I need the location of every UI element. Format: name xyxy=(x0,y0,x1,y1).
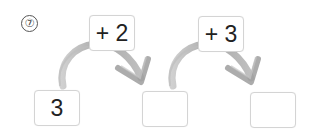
start-value-box: 3 xyxy=(34,90,80,126)
operation-box-2: + 3 xyxy=(198,16,244,52)
operation-box-1: + 2 xyxy=(89,15,135,51)
answer-box-2[interactable] xyxy=(250,92,296,128)
answer-box-1[interactable] xyxy=(142,91,188,127)
